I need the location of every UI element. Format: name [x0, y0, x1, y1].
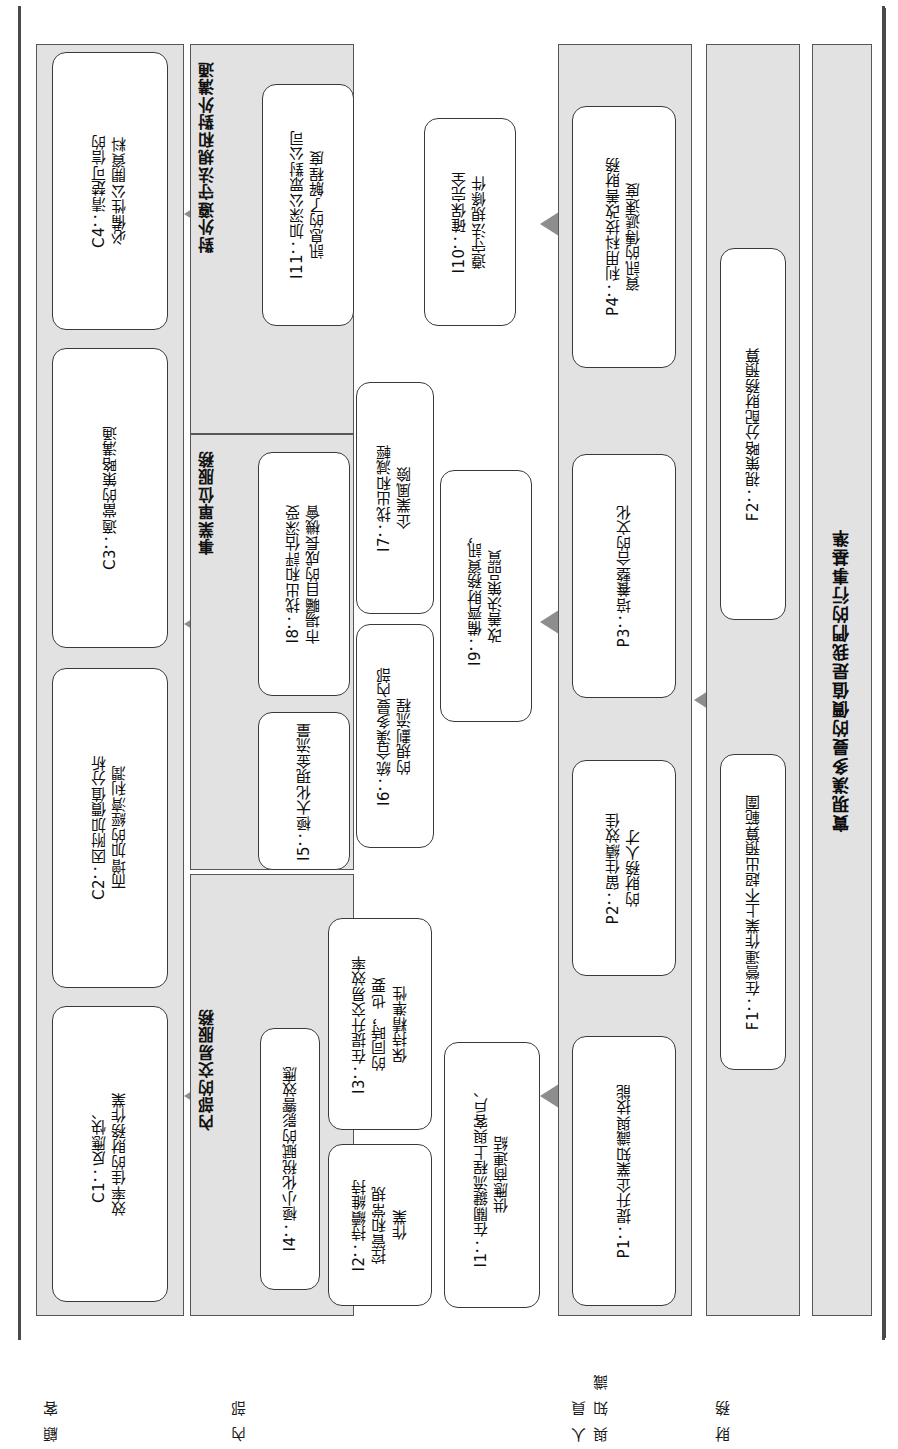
node-i1-label: I1：在關鍵流程上與客戶、 供應商連結 — [471, 1082, 512, 1267]
row-label-customer: 顧 客 — [40, 1352, 63, 1442]
node-p3-label: P3：培養整合的文化 — [614, 504, 635, 648]
node-c2-label: C2：因附加價值分析 而增加的經濟利潤 — [89, 755, 130, 900]
bottom-banner: 實現漢多曼的價值是我們的行事基準 — [812, 44, 872, 1316]
row-label-internal: 內 部 — [228, 1352, 251, 1442]
node-c3-label: C3：適當的策略溝通 — [100, 425, 121, 570]
node-i2-label: I2：持續維持 控管和常規 作業 — [349, 1179, 411, 1271]
strategy-map-flat: C1：反應快、 效率佳的財務作業 C2：因附加價值分析 而增加的經濟利潤 C3：… — [0, 0, 898, 1449]
node-i10-label: I10：確保完全 遵守法規條件 — [449, 171, 490, 274]
group-title-business-unit-service: 事業單位服務 — [196, 450, 220, 555]
node-p2-label: P2：留住績效佳 的財務人才 — [603, 812, 644, 925]
node-i6-label: I6：統合漢多曼內部 的規劃流程 — [374, 667, 415, 806]
node-i11-label: I11：加深公眾對公司 訊息的了解程度 — [287, 130, 328, 279]
row-label-people: 人 員 與 知 識 — [568, 1352, 613, 1442]
node-i4[interactable]: I4：極小化稅賦的影響效應 — [260, 1028, 320, 1290]
node-i2[interactable]: I2：持續維持 控管和常規 作業 — [328, 1144, 432, 1306]
node-f1-label: F1：在營運作業上不超出預算範圍 — [743, 794, 764, 1030]
page-border-left-rule — [18, 6, 21, 1340]
group-title-internal-transaction-service: 內部的交易服務 — [196, 1008, 220, 1131]
page-border-right-rule — [882, 6, 885, 1340]
node-c4[interactable]: C4：清楚可信的 必備性公開資料 — [52, 52, 168, 330]
row-label-finance: 財 務 — [712, 1352, 735, 1442]
node-p1-label: P1：提升企業知識與技能 — [614, 1084, 635, 1259]
node-i7[interactable]: I7：找出和減輕 企業風險 — [356, 382, 434, 614]
node-i10[interactable]: I10：確保完全 遵守法規條件 — [424, 118, 516, 326]
node-c2[interactable]: C2：因附加價值分析 而增加的經濟利潤 — [52, 668, 168, 988]
node-p4[interactable]: P4：利用科技改善財務 資訊的傳遞速度 — [572, 106, 676, 368]
node-p2[interactable]: P2：留住績效佳 的財務人才 — [572, 760, 676, 976]
group-finance — [706, 44, 800, 1316]
node-f2-label: F2：視策略分配財務預算 — [743, 347, 764, 521]
node-i7-label: I7：找出和減輕 企業風險 — [374, 444, 415, 552]
node-i5-label: I5：極大化現金流量 — [294, 722, 315, 861]
node-i8[interactable]: I8：找出和評估深受 市場矚目的成長機會 — [258, 452, 350, 696]
node-i9-label: I9：備齊財務資訊， 改善決策品質 — [465, 527, 506, 666]
group-title-external-compliance: 對外遵守法規和對外溝通 — [196, 60, 220, 253]
node-p3[interactable]: P3：培養整合的文化 — [572, 454, 676, 698]
node-f2[interactable]: F2：視策略分配財務預算 — [720, 248, 786, 620]
node-i1[interactable]: I1：在關鍵流程上與客戶、 供應商連結 — [444, 1042, 540, 1308]
node-c1[interactable]: C1：反應快、 效率佳的財務作業 — [52, 1006, 168, 1302]
node-i5[interactable]: I5：極大化現金流量 — [258, 712, 350, 870]
node-i3-label: I3：在提升交易效率 的同時，也要 保持精準性 — [349, 955, 411, 1094]
node-i11[interactable]: I11：加深公眾對公司 訊息的了解程度 — [262, 84, 354, 326]
node-i6[interactable]: I6：統合漢多曼內部 的規劃流程 — [356, 624, 434, 848]
node-f1[interactable]: F1：在營運作業上不超出預算範圍 — [720, 754, 786, 1070]
node-c4-label: C4：清楚可信的 必備性公開資料 — [89, 134, 130, 248]
node-p4-label: P4：利用科技改善財務 資訊的傳遞速度 — [603, 157, 644, 316]
node-i9[interactable]: I9：備齊財務資訊， 改善決策品質 — [440, 470, 532, 722]
node-c1-label: C1：反應快、 效率佳的財務作業 — [89, 1092, 130, 1216]
node-i3[interactable]: I3：在提升交易效率 的同時，也要 保持精準性 — [328, 918, 432, 1130]
node-i4-label: I4：極小化稅賦的影響效應 — [280, 1066, 301, 1251]
node-i8-label: I8：找出和評估深受 市場矚目的成長機會 — [283, 504, 324, 644]
bottom-banner-label: 實現漢多曼的價值是我們的行事基準 — [830, 528, 853, 832]
node-p1[interactable]: P1：提升企業知識與技能 — [572, 1036, 676, 1306]
node-c3[interactable]: C3：適當的策略溝通 — [52, 348, 168, 648]
